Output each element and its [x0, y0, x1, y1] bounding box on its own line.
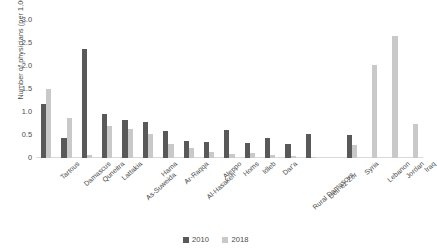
legend-item-2010[interactable]: 2010 — [183, 235, 209, 244]
bar-group — [382, 20, 402, 158]
legend-label: 2018 — [232, 235, 249, 244]
bar-group — [219, 20, 239, 158]
bar-2018 — [311, 157, 316, 158]
bar-group — [56, 20, 76, 158]
bar-2018 — [87, 155, 92, 158]
bar-2018 — [128, 129, 133, 158]
bar-group — [260, 20, 280, 158]
x-axis-label: Dar'a — [281, 160, 298, 176]
x-axis-label: Al-Hasakeh — [205, 171, 237, 200]
bar-series-container — [36, 20, 423, 158]
y-tick-label: 2.5 — [22, 38, 32, 47]
y-tick-label: 1.0 — [22, 107, 32, 116]
bar-group — [342, 20, 362, 158]
legend-swatch-icon — [183, 237, 189, 243]
plot-area: 00.51.01.52.02.53.0 — [36, 20, 423, 158]
bar-group — [97, 20, 117, 158]
bar-group — [179, 20, 199, 158]
bar-group — [36, 20, 56, 158]
y-tick-label: 1.5 — [22, 84, 32, 93]
bar-2018 — [46, 89, 51, 158]
bar-2010 — [306, 134, 311, 158]
y-tick-label: 2.0 — [22, 61, 32, 70]
bar-2018 — [250, 153, 255, 158]
legend-item-2018[interactable]: 2018 — [222, 235, 248, 244]
chart-legend: 20102018 — [0, 235, 431, 244]
bar-2018 — [148, 134, 153, 158]
bar-group — [403, 20, 423, 158]
bar-group — [199, 20, 219, 158]
y-tick-label: 0.5 — [22, 130, 32, 139]
x-axis-label: Syria — [363, 160, 380, 176]
bar-2018 — [229, 154, 234, 158]
bar-2018 — [209, 152, 214, 158]
bar-group — [77, 20, 97, 158]
bar-group — [138, 20, 158, 158]
bar-2018 — [392, 36, 397, 158]
x-axis-label: Tartous — [59, 160, 81, 181]
bar-2010 — [82, 49, 87, 158]
bar-2018 — [67, 118, 72, 158]
bar-2018 — [372, 65, 377, 158]
x-axis-label: Homs — [241, 160, 259, 177]
y-tick-label: 3.0 — [22, 15, 32, 24]
bar-2018 — [413, 124, 418, 159]
bar-group — [321, 20, 341, 158]
bar-2018 — [107, 126, 112, 158]
legend-swatch-icon — [222, 237, 228, 243]
bar-2018 — [291, 156, 296, 158]
bar-group — [301, 20, 321, 158]
y-axis-title-wrapper: Number of physicians (per 1,000 persons) — [0, 12, 14, 160]
bar-2018 — [270, 155, 275, 158]
bar-group — [240, 20, 260, 158]
x-axis-labels: TartousDamascusQuneitraLattakiaAs-Suweid… — [36, 160, 423, 222]
bar-group — [158, 20, 178, 158]
x-axis-label: As-Suweida — [144, 171, 176, 201]
legend-label: 2010 — [192, 235, 209, 244]
x-axis-label: Iraq — [423, 160, 437, 173]
x-axis-label: Ar-Raqqa — [183, 160, 210, 185]
bar-group — [362, 20, 382, 158]
bar-2018 — [352, 145, 357, 158]
bar-2018 — [168, 144, 173, 158]
bar-2018 — [189, 148, 194, 158]
x-axis-label: Idleb — [261, 160, 277, 175]
bar-group — [280, 20, 300, 158]
bar-group — [117, 20, 137, 158]
y-tick-label: 0 — [28, 153, 32, 162]
